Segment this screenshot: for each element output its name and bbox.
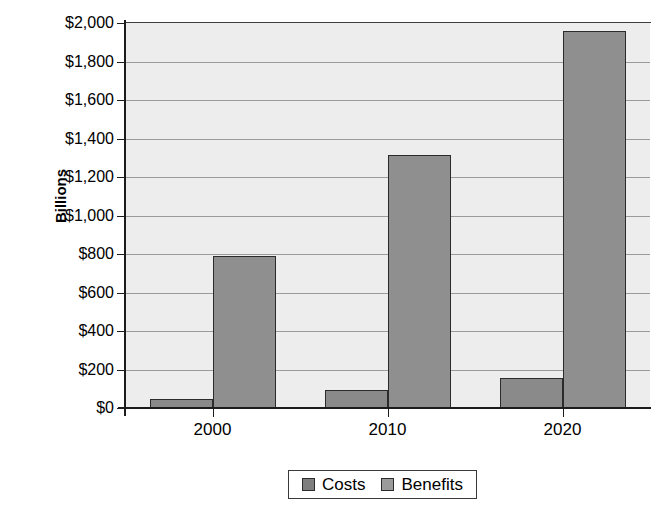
chart-legend: CostsBenefits <box>288 470 477 499</box>
y-axis-tick-label: $1,200 <box>4 169 114 185</box>
x-axis-tick-label-2000: 2000 <box>153 420 273 440</box>
x-axis-tick-label-2010: 2010 <box>328 420 448 440</box>
x-axis-line <box>118 407 651 409</box>
y-axis-tick-label: $1,000 <box>4 208 114 224</box>
x-axis-tick-label-2020: 2020 <box>503 420 623 440</box>
legend-label-costs: Costs <box>322 476 365 493</box>
plot-area <box>125 23 650 408</box>
y-axis-tick-label: $1,800 <box>4 54 114 70</box>
bar-benefits-2020 <box>563 31 626 408</box>
legend-label-benefits: Benefits <box>401 476 462 493</box>
y-axis-line <box>124 20 126 416</box>
legend-swatch-costs <box>302 478 315 491</box>
y-axis-tick-label: $800 <box>4 246 114 262</box>
y-axis-tick-label: $1,400 <box>4 131 114 147</box>
y-axis-tick-label: $0 <box>4 400 114 416</box>
y-axis-tick-label: $200 <box>4 362 114 378</box>
legend-entry-benefits[interactable]: Benefits <box>381 476 462 493</box>
bar-costs-2010 <box>325 390 388 408</box>
x-axis-tick-mark <box>563 408 564 417</box>
y-axis-title: Billions <box>52 141 74 251</box>
x-axis-tick-mark <box>388 408 389 417</box>
y-axis-tick-label: $2,000 <box>4 15 114 31</box>
bar-benefits-2000 <box>213 256 276 408</box>
y-axis-tick-label: $400 <box>4 323 114 339</box>
legend-swatch-benefits <box>381 478 394 491</box>
bar-costs-2020 <box>500 378 563 408</box>
x-axis-tick-mark <box>213 408 214 417</box>
bar-chart-figure: Billions $0$200$400$600$800$1,000$1,200$… <box>0 0 662 511</box>
bar-benefits-2010 <box>388 155 451 408</box>
y-axis-tick-label: $600 <box>4 285 114 301</box>
y-axis-tick-label: $1,600 <box>4 92 114 108</box>
legend-entry-costs[interactable]: Costs <box>302 476 365 493</box>
